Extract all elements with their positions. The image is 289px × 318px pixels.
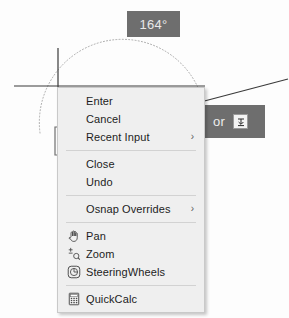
menu-item-icon-placeholder (64, 201, 84, 217)
alternate-input-tooltip[interactable]: or (205, 105, 265, 138)
angle-value-tooltip[interactable]: 164° (127, 11, 180, 37)
menu-item-enter[interactable]: Enter (58, 92, 204, 110)
menu-item-label: Zoom (86, 248, 115, 260)
menu-item-icon-placeholder (64, 93, 84, 109)
menu-item-label: Pan (86, 230, 106, 242)
menu-item-undo[interactable]: Undo (58, 173, 204, 191)
zoom-magnifier-icon (64, 246, 84, 262)
steering-wheel-icon (64, 264, 84, 280)
submenu-chevron-icon: › (191, 204, 194, 214)
menu-item-quickcalc[interactable]: QuickCalc (58, 290, 204, 308)
menu-item-icon-placeholder (64, 174, 84, 190)
menu-item-pan[interactable]: Pan (58, 227, 204, 245)
rubber-band-line (193, 79, 288, 104)
screenshot-root: 164° or Enter Cancel Recent Input › (0, 0, 289, 318)
menu-item-osnap-overrides[interactable]: Osnap Overrides › (58, 200, 204, 218)
menu-separator (66, 285, 196, 286)
menu-item-icon-placeholder (64, 129, 84, 145)
context-menu[interactable]: Enter Cancel Recent Input › Close Undo O… (57, 87, 205, 313)
dynamic-input-dropdown-icon[interactable] (233, 114, 248, 129)
menu-item-close[interactable]: Close (58, 155, 204, 173)
menu-item-label: Osnap Overrides (86, 203, 171, 215)
menu-item-label: Undo (86, 176, 113, 188)
hand-icon (64, 228, 84, 244)
menu-item-label: Enter (86, 95, 113, 107)
calculator-icon (64, 291, 84, 307)
menu-item-zoom[interactable]: Zoom (58, 245, 204, 263)
angle-value-text: 164° (139, 17, 167, 32)
menu-item-icon-placeholder (64, 111, 84, 127)
menu-separator (66, 150, 196, 151)
menu-item-cancel[interactable]: Cancel (58, 110, 204, 128)
menu-item-steeringwheels[interactable]: SteeringWheels (58, 263, 204, 281)
menu-item-label: SteeringWheels (86, 266, 165, 278)
menu-item-icon-placeholder (64, 156, 84, 172)
menu-separator (66, 195, 196, 196)
menu-separator (66, 222, 196, 223)
menu-item-label: Close (86, 158, 115, 170)
submenu-chevron-icon: › (191, 132, 194, 142)
menu-item-label: Cancel (86, 113, 121, 125)
menu-item-label: QuickCalc (86, 293, 137, 305)
menu-item-recent-input[interactable]: Recent Input › (58, 128, 204, 146)
or-label: or (213, 114, 225, 129)
menu-item-label: Recent Input (86, 131, 150, 143)
